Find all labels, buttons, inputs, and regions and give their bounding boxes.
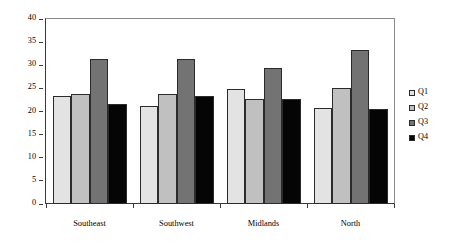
bar-group [314,19,388,204]
x-tick-mark [394,204,395,208]
y-tick-mark [39,42,43,43]
bar-southwest-q1 [140,106,159,205]
bar-north-q1 [314,108,333,204]
bar-group [140,19,214,204]
bar-north-q2 [332,88,351,204]
legend-item-q1: Q1 [409,85,449,100]
bar-midlands-q1 [227,89,246,204]
y-tick-mark [39,180,43,181]
legend-item-q2: Q2 [409,100,449,115]
y-tick-label: 20 [12,106,36,115]
x-axis-label-southeast: Southeast [73,219,106,228]
bar-north-q3 [351,50,370,204]
chart-page: Pecent of Days Worked in the Year 051015… [0,0,449,248]
x-tick-mark [307,204,308,208]
bar-southwest-q4 [195,96,214,204]
x-axis-label-north: North [341,219,361,228]
bar-southeast-q1 [53,96,72,204]
bar-midlands-q3 [264,68,283,204]
y-tick-label: 25 [12,82,36,91]
bar-southwest-q2 [158,94,177,204]
legend-label-q4: Q4 [418,133,428,141]
y-tick-label: 5 [12,175,36,184]
legend-swatch-q1 [409,90,415,96]
legend-label-q2: Q2 [418,103,428,111]
y-tick-label: 0 [12,198,36,207]
legend-item-q4: Q4 [409,130,449,145]
legend-label-q3: Q3 [418,118,428,126]
legend-swatch-q4 [409,135,415,141]
chart-legend: Q1Q2Q3Q4 [409,85,449,145]
legend-swatch-q2 [409,105,415,111]
bar-southeast-q4 [108,104,127,204]
x-tick-mark [220,204,221,208]
y-tick-mark [39,88,43,89]
bar-midlands-q2 [245,99,264,204]
bar-group [227,19,301,204]
y-tick-mark [39,134,43,135]
y-tick-label: 40 [12,13,36,22]
x-tick-mark [46,204,47,208]
y-tick-label: 30 [12,59,36,68]
legend-swatch-q3 [409,120,415,126]
y-tick-mark [39,65,43,66]
y-tick-mark [39,157,43,158]
bar-southwest-q3 [177,59,196,204]
bar-southeast-q3 [90,59,109,204]
plot-area [46,19,394,204]
bar-group [53,19,127,204]
y-tick-mark [39,19,43,20]
bar-midlands-q4 [282,99,301,204]
y-tick-mark [39,204,43,205]
y-tick-mark [39,111,43,112]
y-tick-label: 35 [12,36,36,45]
y-tick-label: 10 [12,152,36,161]
bar-north-q4 [369,109,388,204]
legend-label-q1: Q1 [418,88,428,96]
bar-southeast-q2 [71,94,90,204]
x-axis-label-southwest: Southwest [159,219,194,228]
legend-item-q3: Q3 [409,115,449,130]
y-tick-label: 15 [12,129,36,138]
x-tick-mark [133,204,134,208]
x-axis-label-midlands: Midlands [248,219,280,228]
